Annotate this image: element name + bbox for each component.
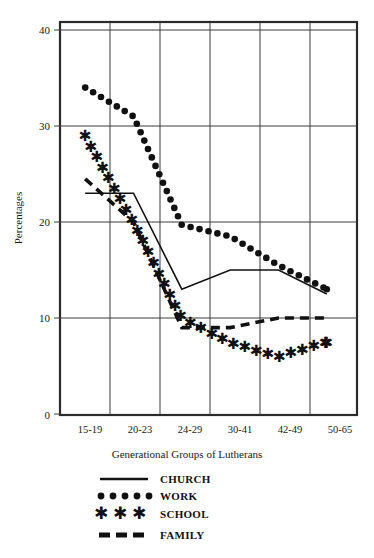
- y-tick-label: 20: [39, 216, 51, 228]
- x-tick-label: 50-65: [328, 424, 353, 435]
- x-tick-label: 20-23: [128, 424, 153, 435]
- y-tick-label: 10: [39, 312, 51, 324]
- svg-text:✱: ✱: [113, 503, 127, 523]
- x-tick-label: 30-41: [228, 424, 253, 435]
- x-axis-title: Generational Groups of Lutherans: [112, 448, 263, 460]
- x-tick-label: 15-19: [78, 424, 103, 435]
- generational-groups-line-chart: 40 30 20 10 0 Percentages 15-19 20-23 24…: [0, 0, 374, 558]
- x-tick-label: 42-49: [278, 424, 303, 435]
- svg-text:✱: ✱: [320, 334, 333, 352]
- legend-label: WORK: [160, 490, 197, 502]
- x-tick-label: 24-29: [178, 424, 203, 435]
- legend-label: SCHOOL: [160, 508, 209, 520]
- chart-figure: 40 30 20 10 0 Percentages 15-19 20-23 24…: [0, 0, 374, 558]
- legend-label: FAMILY: [160, 529, 205, 541]
- y-tick-label: 40: [39, 24, 51, 36]
- svg-text:✱: ✱: [94, 503, 108, 523]
- y-tick-label: 0: [45, 409, 51, 421]
- legend-marker-stars: ✱ ✱ ✱: [94, 503, 146, 523]
- y-axis-title: Percentages: [12, 192, 24, 245]
- y-tick-label: 30: [39, 120, 51, 132]
- legend-label: CHURCH: [160, 473, 211, 485]
- svg-text:✱: ✱: [132, 503, 146, 523]
